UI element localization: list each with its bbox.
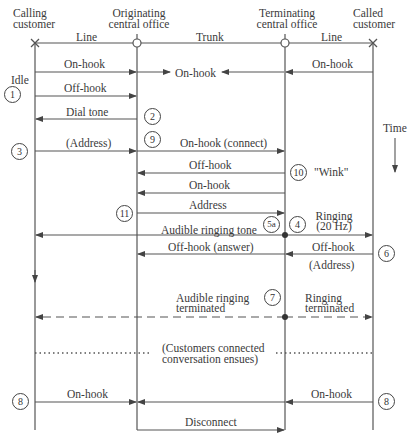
- segment-trunk: Trunk: [196, 31, 224, 43]
- label-idle: Idle: [11, 74, 29, 86]
- step-7: 7: [264, 289, 281, 306]
- msg-on-hook-right: On-hook: [312, 58, 353, 70]
- msg-address: (Address): [66, 137, 111, 149]
- originating-office-node: [133, 39, 141, 47]
- segment-line-left: Line: [76, 31, 97, 43]
- msg-off-hook: Off-hook: [64, 82, 107, 94]
- msg-off-hook-answer: Off-hook (answer): [168, 241, 254, 253]
- step-11: 11: [116, 205, 133, 222]
- msg-ringing: Ringing (20 Hz): [310, 211, 358, 231]
- header-originating-office: Originating central office: [102, 8, 176, 30]
- label-wink: "Wink": [314, 166, 348, 178]
- segment-line-right: Line: [321, 31, 342, 43]
- msg-on-hook-left: On-hook: [64, 58, 105, 70]
- header-calling-customer: Calling customer: [13, 8, 55, 30]
- msg-ringing-terminated: Ringing terminated: [305, 293, 354, 313]
- msg-on-hook-connect: On-hook (connect): [180, 137, 267, 149]
- junction-dot-ringing: [282, 232, 288, 238]
- step-8-right: 8: [378, 393, 395, 410]
- msg-on-hook-mid: On-hook: [175, 67, 216, 79]
- msg-off-hook-called: Off-hook: [312, 241, 355, 253]
- step-6: 6: [378, 245, 395, 262]
- step-8-left: 8: [12, 393, 29, 410]
- msg-disconnect: Disconnect: [185, 416, 237, 428]
- step-9: 9: [144, 131, 161, 148]
- msg-on-hook-end-left: On-hook: [67, 388, 108, 400]
- terminating-office-node: [281, 39, 289, 47]
- msg-audible-ringing-terminated: Audible ringing terminated: [176, 293, 249, 313]
- msg-on-hook-end-right: On-hook: [311, 388, 352, 400]
- header-terminating-office: Terminating central office: [250, 8, 324, 30]
- step-4: 4: [289, 216, 306, 233]
- step-1: 1: [4, 86, 21, 103]
- header-called-customer: Called customer: [353, 8, 395, 30]
- msg-off-hook-trunk: Off-hook: [189, 159, 232, 171]
- step-3: 3: [11, 143, 28, 160]
- step-10: 10: [290, 164, 307, 181]
- msg-address-trunk: Address: [189, 199, 227, 211]
- label-time: Time: [383, 122, 407, 134]
- step-5a: 5a: [263, 216, 280, 233]
- step-2: 2: [144, 108, 161, 125]
- junction-dot-terminated: [282, 314, 288, 320]
- msg-address-called: (Address): [309, 259, 354, 271]
- msg-on-hook-trunk: On-hook: [189, 179, 230, 191]
- msg-customers-connected: (Customers connected conversation ensues…: [162, 343, 265, 365]
- msg-dial-tone: Dial tone: [66, 106, 108, 118]
- msg-audible-ringing-tone: Audible ringing tone: [161, 224, 257, 236]
